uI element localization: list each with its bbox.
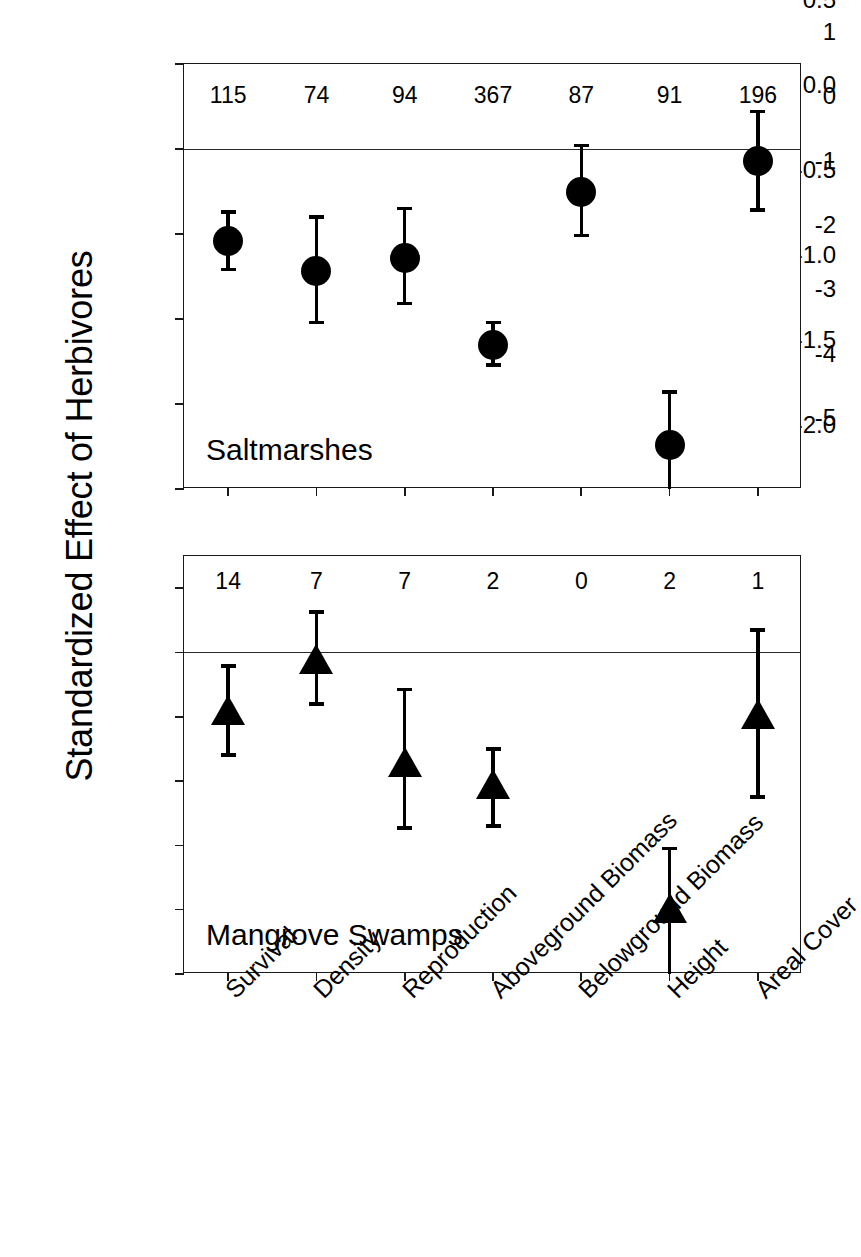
x-axis-label: Density <box>309 926 386 1003</box>
x-axis-label: Areal Cover <box>751 892 861 1003</box>
x-axis-label: Height <box>663 934 732 1003</box>
x-axis-label: Survival <box>221 922 302 1003</box>
